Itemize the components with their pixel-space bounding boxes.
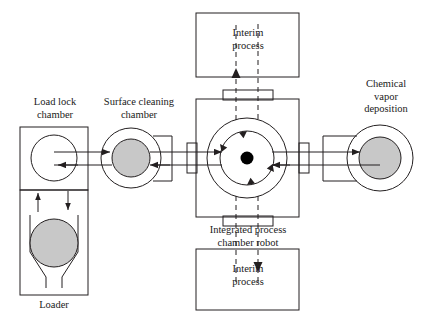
interim-up-arrowhead <box>232 68 241 78</box>
label-surface-cleaning-chamber: Surface cleaning chamber <box>84 96 194 121</box>
cvd-wafer <box>359 137 401 179</box>
loader-wafer <box>30 219 78 267</box>
label-loader: Loader <box>24 299 84 312</box>
label-interim-process-top: Interim process <box>206 27 290 52</box>
robot-hub-dot <box>241 152 254 165</box>
surface-cleaning-chamber <box>101 128 172 188</box>
surface-cleaning-wafer <box>112 139 150 177</box>
loader-station <box>20 190 88 295</box>
label-integrated-process-chamber-robot: Integrated process chamber robot <box>190 224 306 249</box>
label-interim-process-bottom: Interim process <box>206 263 290 288</box>
chemical-vapor-deposition-chamber <box>323 125 413 191</box>
load-lock-wafer-position <box>31 135 77 181</box>
label-chemical-vapor-deposition: Chemical vapor deposition <box>341 78 431 116</box>
wafer-transfer-lines <box>54 152 380 165</box>
load-lock-chamber <box>20 127 88 190</box>
process-flow-diagram: Load lock chamber Surface cleaning chamb… <box>0 0 433 323</box>
integrated-process-chamber-robot <box>187 90 309 226</box>
loader-transfer-arrows <box>38 191 68 212</box>
